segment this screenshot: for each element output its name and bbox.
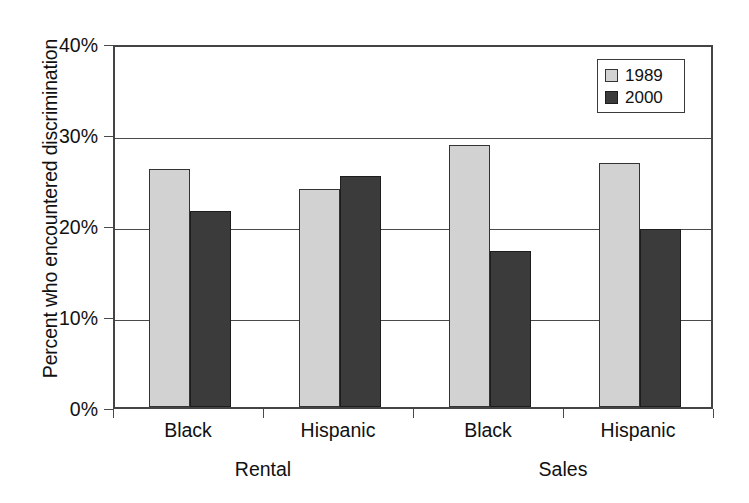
bar-1989-sales-black [449, 145, 490, 407]
y-tick-label: 10% [0, 307, 98, 330]
legend-item-2000: 2000 [605, 86, 684, 108]
y-tick-mark [104, 227, 113, 228]
y-tick-mark [104, 136, 113, 137]
x-tick-3 [563, 409, 564, 418]
y-tick-label: 40% [0, 34, 98, 57]
legend-swatch-1989-icon [605, 69, 618, 82]
bar-1989-sales-hispanic [599, 163, 640, 407]
bar-chart-figure: Percent who encountered discrimination 0… [0, 0, 749, 503]
x-axis-label-hispanic-sales: Hispanic [548, 419, 728, 442]
y-tick-label: 30% [0, 125, 98, 148]
chart-legend: 1989 2000 [597, 59, 685, 113]
bar-2000-rental-black [190, 211, 231, 407]
gridline-30 [115, 138, 711, 139]
y-tick-label: 0% [0, 398, 98, 421]
x-axis-group-label-rental: Rental [143, 458, 383, 481]
bar-2000-rental-hispanic [340, 176, 381, 407]
y-tick-mark [104, 409, 113, 410]
legend-label-2000: 2000 [625, 89, 663, 106]
bar-1989-rental-black [149, 169, 190, 407]
bar-2000-sales-black [490, 251, 531, 407]
x-tick-1 [263, 409, 264, 418]
y-tick-mark [104, 45, 113, 46]
x-tick-0 [113, 409, 114, 418]
y-axis-title: Percent who encountered discrimination [39, 9, 62, 409]
legend-swatch-2000-icon [605, 91, 618, 104]
legend-item-1989: 1989 [605, 64, 684, 86]
x-axis-group-label-sales: Sales [443, 458, 683, 481]
y-tick-mark [104, 318, 113, 319]
legend-label-1989: 1989 [625, 67, 663, 84]
x-tick-2 [413, 409, 414, 418]
y-tick-label: 20% [0, 216, 98, 239]
x-tick-4 [713, 409, 714, 418]
bar-2000-sales-hispanic [640, 229, 681, 407]
bar-1989-rental-hispanic [299, 189, 340, 407]
